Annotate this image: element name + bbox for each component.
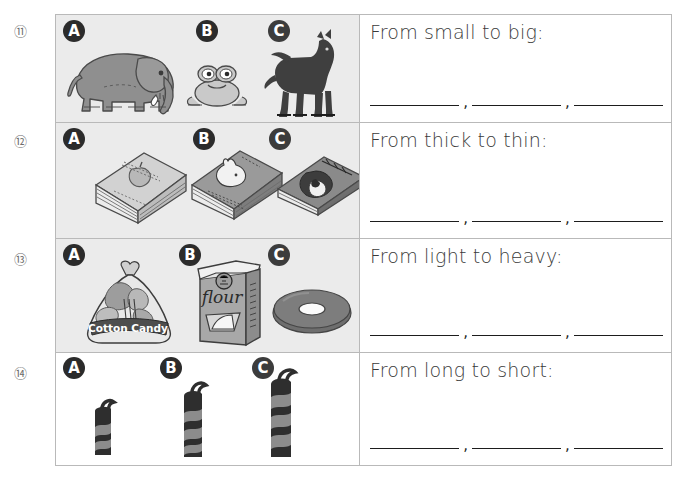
picture-cell-row-14: A B C <box>56 353 360 465</box>
answer-comma-2: , <box>561 328 574 336</box>
prompt-text: From light to heavy: <box>370 245 661 267</box>
short-candle-illustration <box>86 393 128 459</box>
answer-comma-1: , <box>459 441 472 449</box>
answer-lines: , , <box>370 328 663 336</box>
option-badge-c[interactable]: C <box>268 244 290 266</box>
answer-blank-3[interactable] <box>574 220 663 222</box>
question-number-11: ⑪ <box>8 22 32 42</box>
picture-cell-row-12: A B C <box>56 123 360 238</box>
table-row: A B C Cotton Candy <box>56 239 671 353</box>
answer-comma-2: , <box>561 441 574 449</box>
answer-blank-2[interactable] <box>472 104 561 106</box>
prompt-text: From thick to thin: <box>370 129 661 151</box>
answer-blank-1[interactable] <box>370 220 459 222</box>
answer-blank-2[interactable] <box>472 447 561 449</box>
table-row: A B C <box>56 15 671 123</box>
question-number-12: ⑫ <box>8 132 32 152</box>
option-badge-c[interactable]: C <box>252 357 274 379</box>
answer-lines: , , <box>370 441 663 449</box>
answer-blank-1[interactable] <box>370 447 459 449</box>
option-badge-b[interactable]: B <box>179 244 201 266</box>
answer-blank-1[interactable] <box>370 334 459 336</box>
answer-lines: , , <box>370 214 663 222</box>
prompt-text: From small to big: <box>370 21 661 43</box>
worksheet-page: ⑪ ⑫ ⑬ ⑭ A B C <box>0 0 683 479</box>
option-badge-a[interactable]: A <box>63 244 85 266</box>
table-row: A B C <box>56 353 671 465</box>
medium-book-illustration <box>186 139 286 225</box>
option-badge-a[interactable]: A <box>63 20 85 42</box>
option-badge-b[interactable]: B <box>196 20 218 42</box>
picture-cell-row-13: A B C Cotton Candy <box>56 239 360 352</box>
prompt-cell-row-13: From light to heavy: , , <box>360 239 671 352</box>
prompt-cell-row-14: From long to short: , , <box>360 353 671 465</box>
option-badge-c[interactable]: C <box>269 128 291 150</box>
answer-blank-2[interactable] <box>472 220 561 222</box>
prompt-cell-row-12: From thick to thin: , , <box>360 123 671 238</box>
donut-illustration <box>271 287 353 335</box>
long-candle-illustration <box>261 365 307 461</box>
flour-bag-illustration: flour <box>182 251 268 347</box>
answer-comma-2: , <box>561 98 574 106</box>
worksheet-table: A B C <box>55 14 672 466</box>
prompt-cell-row-11: From small to big: , , <box>360 15 671 122</box>
table-row: A B C <box>56 123 671 239</box>
option-badge-b[interactable]: B <box>160 357 182 379</box>
answer-blank-3[interactable] <box>574 447 663 449</box>
horse-illustration <box>261 31 345 119</box>
answer-comma-1: , <box>459 328 472 336</box>
cotton-candy-illustration: Cotton Candy <box>76 255 180 347</box>
question-number-13: ⑬ <box>8 250 32 270</box>
option-badge-a[interactable]: A <box>63 357 85 379</box>
question-number-14: ⑭ <box>8 364 32 384</box>
picture-cell-row-11: A B C <box>56 15 360 122</box>
answer-comma-1: , <box>459 98 472 106</box>
cotton-candy-label: Cotton Candy <box>88 322 168 334</box>
answer-lines: , , <box>370 98 663 106</box>
question-number-column: ⑪ ⑫ ⑬ ⑭ <box>0 0 55 479</box>
frog-illustration <box>184 63 250 111</box>
thin-book-illustration <box>272 143 360 223</box>
flour-label: flour <box>200 287 244 307</box>
option-badge-c[interactable]: C <box>268 20 290 42</box>
answer-comma-1: , <box>459 214 472 222</box>
answer-comma-2: , <box>561 214 574 222</box>
option-badge-b[interactable]: B <box>193 128 215 150</box>
answer-blank-1[interactable] <box>370 104 459 106</box>
answer-blank-3[interactable] <box>574 334 663 336</box>
answer-blank-3[interactable] <box>574 104 663 106</box>
option-badge-a[interactable]: A <box>63 128 85 150</box>
elephant-illustration <box>64 37 184 119</box>
medium-candle-illustration <box>174 377 218 461</box>
answer-blank-2[interactable] <box>472 334 561 336</box>
prompt-text: From long to short: <box>370 359 661 381</box>
thick-book-illustration <box>88 141 192 225</box>
